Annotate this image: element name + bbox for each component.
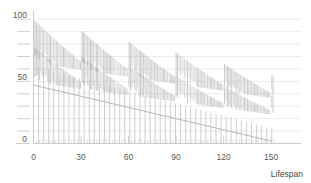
x-axis-tick-labels: 0306090120150 [31,152,278,162]
x-axis-tick-label: 0 [31,152,36,162]
x-axis-tick-label: 120 [217,152,231,162]
y-axis-tick-label: 0 [22,134,27,144]
x-axis-tick-label: 150 [264,152,278,162]
data-sticks-group [34,19,274,114]
y-axis-tick-labels: 050100 [13,10,27,144]
x-axis-title: Lifespan [271,169,303,179]
y-axis-tick-label: 50 [18,72,28,82]
x-axis-tick-label: 30 [76,152,86,162]
lifespan-chart: 050100 0306090120150 Lifespan [0,0,311,183]
x-axis-tick-label: 60 [124,152,134,162]
y-axis-tick-label: 100 [13,10,27,20]
x-axis-ticks-group [34,136,275,144]
chart-container: 050100 0306090120150 Lifespan [0,0,311,183]
x-axis-tick-label: 90 [171,152,181,162]
